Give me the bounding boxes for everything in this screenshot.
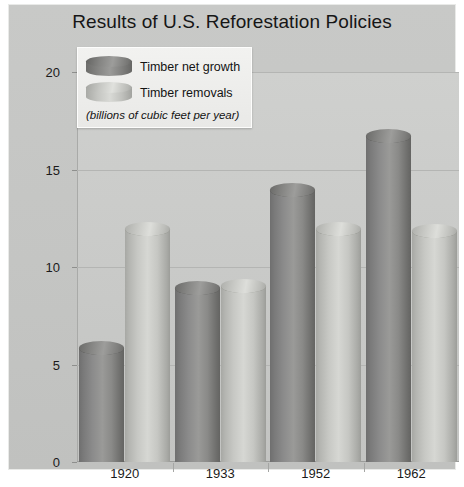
legend-item: Timber net growth — [86, 54, 243, 80]
x-axis-tick-label: 1920 — [110, 466, 139, 481]
legend-swatch-timber-removals-icon — [86, 82, 132, 105]
y-axis-tick-label: 15 — [37, 162, 67, 177]
bar-1962-net-growth — [366, 129, 411, 462]
legend-item: Timber removals — [86, 80, 243, 106]
chart-frame: Results of U.S. Reforestation Policies 0… — [8, 4, 456, 470]
x-axis-tick-label: 1952 — [301, 466, 330, 481]
bar-1933-net-growth — [175, 281, 220, 462]
x-axis-tick-label: 1962 — [397, 466, 426, 481]
x-axis-separator — [268, 463, 269, 472]
x-axis-tick-label: 1933 — [206, 466, 235, 481]
bar-1920-net-growth — [79, 341, 124, 462]
bars-layer — [77, 72, 459, 462]
chart-title: Results of U.S. Reforestation Policies — [9, 11, 455, 33]
bar-1962-removals — [412, 224, 457, 462]
bar-1952-removals — [316, 222, 361, 462]
y-axis-tick-label: 0 — [37, 455, 67, 470]
legend-units-note: (billions of cubic feet per year) — [86, 106, 243, 122]
y-axis-tick-label: 5 — [37, 357, 67, 372]
plot-wrapper: 05101520 1920193319521962 Timber net gro… — [47, 41, 459, 462]
chart-legend: Timber net growth Timber removals (billi… — [77, 47, 252, 128]
x-axis-separator — [364, 463, 365, 472]
bar-1920-removals — [125, 222, 170, 462]
legend-swatch-timber-net-growth-icon — [86, 56, 132, 79]
bar-1933-removals — [221, 279, 266, 462]
reforestation-bar-chart: Results of U.S. Reforestation Policies 0… — [0, 0, 464, 487]
legend-label: Timber removals — [140, 86, 233, 100]
y-axis-tick-label: 10 — [37, 260, 67, 275]
y-axis-tick-mark — [72, 462, 77, 463]
bar-1952-net-growth — [270, 183, 315, 462]
legend-label: Timber net growth — [140, 60, 240, 74]
x-axis-separator — [173, 463, 174, 472]
y-axis-tick-label: 20 — [37, 65, 67, 80]
